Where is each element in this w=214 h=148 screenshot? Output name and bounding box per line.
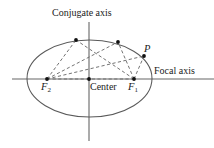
focus-2-label: F2 <box>41 82 51 94</box>
point-ellipse-b <box>116 40 120 44</box>
focus-1-label: F1 <box>128 82 138 94</box>
focal-axis-label: Focal axis <box>154 66 195 76</box>
segment-f1-to-a <box>76 40 134 79</box>
center-label: Center <box>90 82 117 92</box>
dashed-segments <box>47 40 144 79</box>
segment-f1-to-p <box>134 56 144 79</box>
focus-1-subscript: 1 <box>134 86 138 94</box>
point-ellipse-a <box>74 38 78 42</box>
point-ellipse-p <box>142 54 146 58</box>
conjugate-axis-label: Conjugate axis <box>52 8 112 18</box>
focus-2-subscript: 2 <box>47 86 51 94</box>
ellipse-diagram: Conjugate axis Focal axis Center F1 F2 P <box>0 0 214 148</box>
segment-f2-to-b <box>47 42 118 79</box>
point-p-label: P <box>144 44 150 55</box>
